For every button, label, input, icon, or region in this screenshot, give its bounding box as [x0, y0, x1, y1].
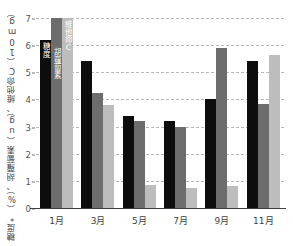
plot-area: 7 6 5 4 3 2 1 0 糖度胡蘿蔔素維他命C — [36, 18, 284, 208]
bar — [145, 185, 156, 208]
y-tick-mark-1 — [32, 181, 35, 182]
y-tick-label-2: 2 — [26, 150, 31, 160]
bar — [92, 93, 103, 208]
series-label-0: 糖度 — [41, 42, 50, 57]
series-label-1: 胡蘿蔔素 — [52, 48, 61, 78]
bar-groups: 糖度胡蘿蔔素維他命C — [36, 18, 284, 208]
bar — [269, 55, 280, 208]
x-axis-labels: 1月3月5月7月9月11月 — [36, 210, 284, 232]
bar — [134, 121, 145, 208]
y-tick-mark-2 — [32, 154, 35, 155]
bar: 胡蘿蔔素 — [51, 18, 62, 208]
y-tick-mark-6 — [32, 46, 35, 47]
series-label-2: 維他命C — [63, 20, 72, 51]
x-axis-label: 11月 — [243, 210, 284, 232]
bar — [186, 188, 197, 208]
x-axis-label: 9月 — [201, 210, 242, 232]
x-axis-label: 5月 — [119, 210, 160, 232]
y-tick-mark-4 — [32, 100, 35, 101]
bar — [247, 61, 258, 208]
y-axis-title: 糖度*（%）、胡蘿蔔素（ug）、維他命C（10mg） — [1, 12, 17, 238]
y-tick-label-5: 5 — [26, 68, 31, 78]
bar — [216, 48, 227, 208]
bar — [123, 116, 134, 208]
bar-group — [201, 18, 242, 208]
bar — [103, 105, 114, 208]
x-axis-label: 3月 — [77, 210, 118, 232]
bar — [227, 186, 238, 208]
bar — [258, 104, 269, 209]
x-axis-label: 1月 — [36, 210, 77, 232]
bar — [205, 99, 216, 208]
bar-group — [77, 18, 118, 208]
y-tick-label-1: 1 — [26, 177, 31, 187]
y-tick-label-0: 0 — [26, 204, 31, 214]
bar: 糖度 — [40, 40, 51, 208]
bar-group — [243, 18, 284, 208]
x-axis-label: 7月 — [160, 210, 201, 232]
bar — [175, 127, 186, 208]
bar-group — [160, 18, 201, 208]
y-tick-label-3: 3 — [26, 123, 31, 133]
bar — [164, 121, 175, 208]
y-tick-mark-7 — [32, 19, 35, 20]
bar — [81, 61, 92, 208]
y-tick-label-6: 6 — [26, 41, 31, 51]
y-tick-label-7: 7 — [26, 14, 31, 24]
y-tick-label-4: 4 — [26, 95, 31, 105]
y-tick-mark-5 — [32, 73, 35, 74]
x-axis-line — [30, 208, 286, 209]
bar-group: 糖度胡蘿蔔素維他命C — [36, 18, 77, 208]
bar: 維他命C — [62, 18, 73, 208]
bar-group — [119, 18, 160, 208]
bar-chart: 糖度*（%）、胡蘿蔔素（ug）、維他命C（10mg） 7 6 5 4 3 2 1… — [0, 0, 293, 246]
y-tick-mark-3 — [32, 127, 35, 128]
